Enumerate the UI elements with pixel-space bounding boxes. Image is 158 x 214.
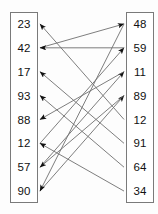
- edge-64-to-93: [40, 96, 124, 168]
- right-cell-7: 34: [127, 180, 153, 204]
- left-cell-6: 57: [11, 156, 37, 180]
- arrow-edges: [40, 24, 124, 191]
- right-cell-3: 89: [127, 85, 153, 109]
- left-cell-5: 12: [11, 132, 37, 156]
- left-cell-2: 17: [11, 61, 37, 85]
- edge-42-to-48: [40, 24, 124, 48]
- edge-91-to-17: [40, 72, 124, 144]
- left-cell-1: 42: [11, 37, 37, 61]
- left-cell-4: 88: [11, 109, 37, 133]
- edge-90-to-89: [40, 96, 124, 192]
- left-cell-3: 93: [11, 85, 37, 109]
- right-cell-6: 64: [127, 156, 153, 180]
- edge-12-to-59: [40, 48, 124, 144]
- edge-11-to-88: [40, 72, 124, 120]
- left-cell-7: 90: [11, 180, 37, 204]
- right-cell-0: 48: [127, 13, 153, 37]
- diagram-canvas: 2342179388125790 4859118912916434: [0, 0, 158, 214]
- right-value-column: 4859118912916434: [126, 12, 154, 203]
- edge-12-to-23: [40, 24, 124, 120]
- right-cell-5: 91: [127, 132, 153, 156]
- right-cell-1: 59: [127, 37, 153, 61]
- edge-89-to-57: [40, 96, 124, 168]
- right-cell-4: 12: [127, 109, 153, 133]
- edge-48-to-90: [40, 24, 124, 191]
- edge-57-to-11: [40, 72, 124, 168]
- left-value-column: 2342179388125790: [10, 12, 38, 203]
- right-cell-2: 11: [127, 61, 153, 85]
- edge-34-to-12: [40, 143, 124, 191]
- left-cell-0: 23: [11, 13, 37, 37]
